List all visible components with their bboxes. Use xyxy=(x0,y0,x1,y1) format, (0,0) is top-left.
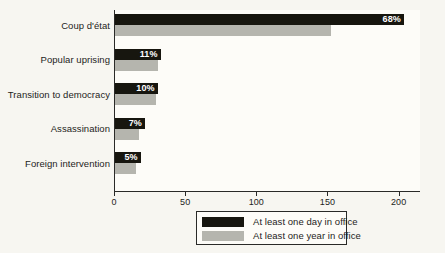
category-label: Assassination xyxy=(0,123,110,134)
x-tick-label: 50 xyxy=(180,197,190,207)
x-tick xyxy=(114,192,115,196)
x-tick-label: 100 xyxy=(249,197,264,207)
chart-legend: At least one day in office At least one … xyxy=(196,211,347,245)
bar-value-label: 10% xyxy=(136,83,154,94)
bar-day-in-office: 5% xyxy=(115,152,141,163)
bar-day-in-office: 68% xyxy=(115,14,404,25)
x-tick xyxy=(185,192,186,196)
category-label: Foreign intervention xyxy=(0,158,110,169)
x-tick-label: 150 xyxy=(320,197,335,207)
legend-swatch-year-icon xyxy=(202,231,244,241)
x-tick xyxy=(327,192,328,196)
x-tick xyxy=(256,192,257,196)
legend-swatch-day-icon xyxy=(202,217,244,227)
x-tick-label: 0 xyxy=(111,197,116,207)
plot-area xyxy=(114,10,420,191)
category-label: Popular uprising xyxy=(0,54,110,65)
bar-value-label: 11% xyxy=(140,49,158,60)
bar-year-in-office xyxy=(115,25,331,36)
bar-year-in-office xyxy=(115,129,139,140)
bar-year-in-office xyxy=(115,60,158,71)
category-label: Coup d'état xyxy=(0,20,110,31)
x-axis-line xyxy=(114,191,420,192)
bar-day-in-office: 7% xyxy=(115,118,145,129)
bar-year-in-office xyxy=(115,94,156,105)
legend-label-day: At least one day in office xyxy=(253,216,358,227)
bar-chart: 050100150200 Coup d'étatPopular uprising… xyxy=(0,0,445,253)
legend-label-year: At least one year in office xyxy=(253,230,361,241)
bar-value-label: 7% xyxy=(129,118,142,129)
bar-year-in-office xyxy=(115,163,136,174)
bar-value-label: 68% xyxy=(383,14,401,25)
bar-day-in-office: 10% xyxy=(115,83,158,94)
legend-item-year: At least one year in office xyxy=(202,229,361,242)
bar-day-in-office: 11% xyxy=(115,49,161,60)
x-tick xyxy=(399,192,400,196)
x-tick-label: 200 xyxy=(391,197,406,207)
category-label: Transition to democracy xyxy=(0,89,110,100)
bar-value-label: 5% xyxy=(124,152,137,163)
legend-item-day: At least one day in office xyxy=(202,215,358,228)
